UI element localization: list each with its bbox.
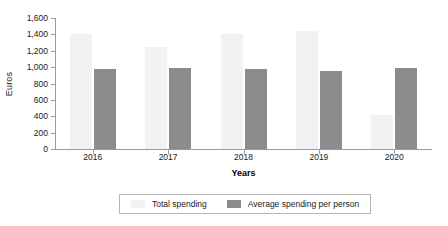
- bar-group: [221, 18, 267, 149]
- x-axis-title: Years: [55, 168, 432, 178]
- y-axis-title-label: Euros: [4, 72, 14, 97]
- legend-entry[interactable]: Average spending per person: [227, 200, 359, 209]
- legend-swatch-icon: [227, 200, 241, 208]
- bar[interactable]: [145, 47, 167, 149]
- x-axis-tick-label: 2020: [385, 153, 404, 162]
- y-axis-tick-mark: [51, 34, 55, 35]
- legend-label: Average spending per person: [248, 200, 359, 209]
- y-axis-tick-label: 600: [34, 96, 48, 105]
- y-axis-tick-labels: 02004006008001,0001,2001,4001,600: [18, 18, 51, 150]
- y-axis-tick-mark: [51, 18, 55, 19]
- bar-group: [145, 18, 191, 149]
- x-axis-tick-label: 2018: [234, 153, 253, 162]
- y-axis-tick-label: 1,000: [27, 63, 48, 72]
- x-axis-tick-labels: 20162017201820192020: [55, 153, 432, 167]
- bar[interactable]: [94, 69, 116, 149]
- bar[interactable]: [169, 68, 191, 149]
- x-axis-tick-label: 2017: [159, 153, 178, 162]
- y-axis-tick-label: 1,200: [27, 47, 48, 56]
- y-axis-tick-label: 200: [34, 128, 48, 137]
- y-axis-tick-mark: [51, 100, 55, 101]
- y-axis-tick-mark: [51, 67, 55, 68]
- bar[interactable]: [221, 34, 243, 149]
- x-axis-tick-label: 2016: [83, 153, 102, 162]
- y-axis-tick-mark: [51, 84, 55, 85]
- bar-chart: Euros 02004006008001,0001,2001,4001,600 …: [0, 0, 448, 226]
- y-axis-tick-label: 0: [43, 145, 48, 154]
- y-axis-tick-mark: [51, 133, 55, 134]
- bar[interactable]: [371, 115, 393, 149]
- plot-area: [55, 18, 432, 150]
- y-axis-tick-mark: [51, 116, 55, 117]
- y-axis-tick-label: 800: [34, 79, 48, 88]
- bar[interactable]: [395, 68, 417, 149]
- chart-legend: Total spendingAverage spending per perso…: [119, 194, 371, 214]
- bar-group: [70, 18, 116, 149]
- y-axis-tick-label: 400: [34, 112, 48, 121]
- x-axis-tick-label: 2019: [309, 153, 328, 162]
- y-axis-tick-mark: [51, 149, 55, 150]
- y-axis-line: [55, 18, 56, 150]
- legend-entry[interactable]: Total spending: [131, 200, 207, 209]
- bar[interactable]: [70, 34, 92, 149]
- bar-group: [296, 18, 342, 149]
- y-axis-title: Euros: [0, 18, 18, 150]
- bar[interactable]: [245, 69, 267, 149]
- y-axis-tick-label: 1,600: [27, 14, 48, 23]
- legend-swatch-icon: [131, 200, 145, 208]
- bar-group: [371, 18, 417, 149]
- bar[interactable]: [320, 71, 342, 149]
- bar[interactable]: [296, 31, 318, 149]
- y-axis-tick-mark: [51, 51, 55, 52]
- y-axis-tick-label: 1,400: [27, 30, 48, 39]
- legend-label: Total spending: [152, 200, 207, 209]
